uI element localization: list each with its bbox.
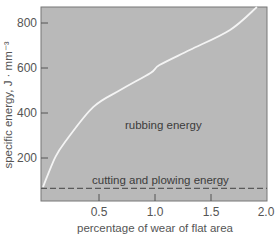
x-tick-label: 1.5 xyxy=(203,205,220,219)
annotation-rubbing-energy: rubbing energy xyxy=(125,119,202,131)
y-axis-title: specific energy, J · mm⁻³ xyxy=(2,41,14,168)
y-tick-label: 400 xyxy=(17,106,37,120)
annotation-cutting-plowing-energy: cutting and plowing energy xyxy=(92,174,229,186)
x-tick-label: 0.5 xyxy=(91,205,108,219)
specific-energy-chart: 200400600800 0.51.01.52.0 rubbing energy… xyxy=(0,0,277,239)
x-axis-title: percentage of wear of flat area xyxy=(77,222,234,234)
y-tick-label: 800 xyxy=(17,16,37,30)
plot-area xyxy=(41,7,267,201)
x-tick-label: 1.0 xyxy=(147,205,164,219)
x-tick-label: 2.0 xyxy=(258,205,275,219)
y-tick-label: 200 xyxy=(17,151,37,165)
y-tick-label: 600 xyxy=(17,61,37,75)
